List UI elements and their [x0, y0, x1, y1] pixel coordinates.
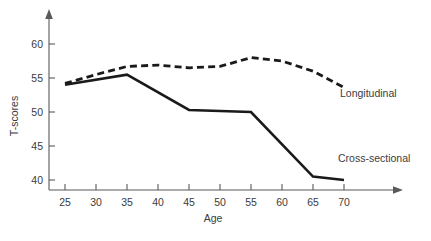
y-axis-tick-labels: 4045505560	[31, 38, 43, 186]
y-axis-ticks	[49, 44, 55, 180]
y-axis-arrowhead	[45, 9, 53, 19]
y-tick-label: 40	[31, 174, 43, 186]
series-line-longitudinal	[65, 58, 344, 88]
y-axis-title: T-scores	[8, 96, 20, 136]
x-tick-label: 70	[338, 196, 350, 208]
x-tick-label: 40	[152, 196, 164, 208]
series-line-cross-sectional	[65, 75, 344, 180]
line-chart: 4045505560 25303540455055606570 Longitud…	[0, 0, 431, 241]
y-tick-label: 50	[31, 106, 43, 118]
x-axis-title: Age	[204, 212, 223, 224]
chart-container: 4045505560 25303540455055606570 Longitud…	[0, 0, 431, 241]
x-tick-label: 65	[307, 196, 319, 208]
x-tick-label: 25	[59, 196, 71, 208]
x-tick-label: 35	[121, 196, 133, 208]
x-tick-label: 60	[276, 196, 288, 208]
x-tick-label: 45	[183, 196, 195, 208]
x-tick-label: 50	[214, 196, 226, 208]
y-tick-label: 45	[31, 140, 43, 152]
x-axis-tick-labels: 25303540455055606570	[59, 196, 350, 208]
x-tick-label: 55	[245, 196, 257, 208]
axes	[45, 9, 403, 194]
series-label-longitudinal: Longitudinal	[340, 87, 397, 99]
y-tick-label: 60	[31, 38, 43, 50]
y-tick-label: 55	[31, 72, 43, 84]
x-axis-arrowhead	[393, 186, 403, 194]
x-tick-label: 30	[90, 196, 102, 208]
x-axis-ticks	[65, 184, 344, 190]
series-label-cross-sectional: Cross-sectional	[338, 152, 410, 164]
